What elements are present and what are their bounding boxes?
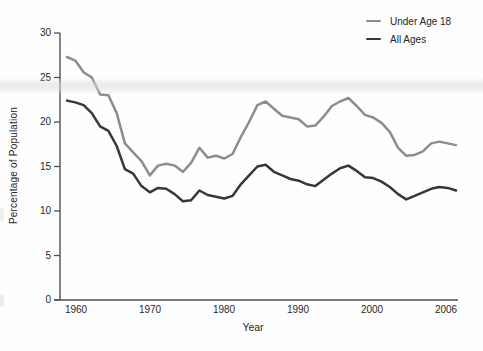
y-tick-label: 20 <box>27 116 51 127</box>
all-ages-line-swatch <box>366 38 381 41</box>
chart-plot-area <box>0 0 483 351</box>
poverty-rate-chart: Percentage of Population Year 0510152025… <box>0 0 483 351</box>
x-tick-label: 2006 <box>426 304 466 315</box>
page-edge-smudge <box>0 208 4 221</box>
x-tick-label: 1960 <box>56 304 96 315</box>
x-tick-label: 1980 <box>204 304 244 315</box>
all-ages-line <box>67 101 456 202</box>
x-tick-label: 2000 <box>352 304 392 315</box>
y-tick-label: 0 <box>27 294 51 305</box>
legend-item-all-ages: All Ages <box>366 30 451 48</box>
x-axis-title: Year <box>203 321 303 333</box>
y-axis-title: Percentage of Population <box>8 106 19 226</box>
x-tick-label: 1990 <box>278 304 318 315</box>
legend-label-all-ages: All Ages <box>390 34 426 45</box>
x-tick-label: 1970 <box>130 304 170 315</box>
y-tick-label: 15 <box>27 161 51 172</box>
legend: Under Age 18 All Ages <box>366 12 451 48</box>
y-tick-label: 30 <box>27 27 51 38</box>
y-tick-label: 10 <box>27 205 51 216</box>
page-edge-smudge <box>0 294 4 307</box>
legend-label-under-age-18: Under Age 18 <box>390 16 451 27</box>
y-tick-label: 25 <box>27 72 51 83</box>
legend-item-under-age-18: Under Age 18 <box>366 12 451 30</box>
y-tick-label: 5 <box>27 250 51 261</box>
under-age-18-line <box>67 57 456 175</box>
under-age-18-line-swatch <box>366 20 381 23</box>
